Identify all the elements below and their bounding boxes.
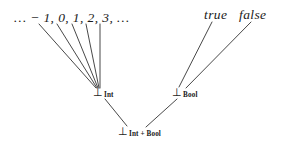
node-bottom-int-plus-bool: ⊥ Int + Bool [118, 126, 161, 137]
lattice-edge [39, 24, 96, 88]
lattice-edge [105, 99, 127, 126]
node-bottom-bool: ⊥ Bool [172, 87, 197, 98]
domain-diagram: … − 1, 0, 1, 2, 3, … true false ⊥ Int ⊥ … [0, 0, 284, 149]
lattice-edge [72, 24, 98, 88]
bottom-tack-icon: ⊥ [118, 126, 128, 137]
false-label: false [239, 8, 267, 22]
bottom-tack-icon: ⊥ [93, 87, 103, 98]
node-subscript: Int + Bool [129, 131, 161, 138]
lattice-edge [146, 99, 177, 127]
bottom-tack-icon: ⊥ [172, 87, 182, 98]
lattice-edge [57, 24, 97, 88]
node-subscript: Bool [183, 92, 197, 99]
node-bottom-int: ⊥ Int [93, 87, 114, 98]
node-subscript: Int [104, 92, 114, 99]
integer-set-label: … − 1, 0, 1, 2, 3, … [14, 11, 129, 25]
true-label: true [204, 8, 227, 22]
lattice-edge [179, 22, 212, 87]
